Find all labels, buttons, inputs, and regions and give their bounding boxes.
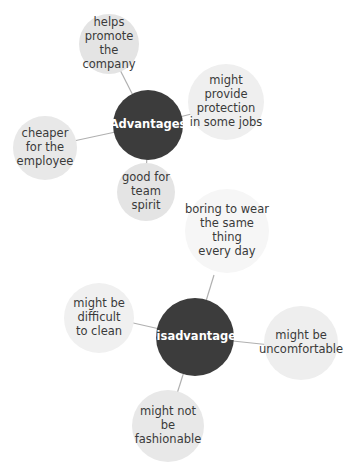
node-boring-to-wear: boring to wear the same thing every day bbox=[185, 189, 269, 273]
hub-advantages: Advantages bbox=[113, 90, 183, 160]
hub-label: Advantages bbox=[110, 118, 187, 132]
node-might-provide-protection: might provide protection in some jobs bbox=[188, 64, 264, 140]
node-might-be-uncomfortable: might be uncomfortable bbox=[264, 306, 338, 380]
node-might-not-be-fashionable: might not be fashionable bbox=[132, 390, 204, 462]
node-label: might be difficult to clean bbox=[73, 297, 125, 338]
node-label: might provide protection in some jobs bbox=[190, 74, 263, 129]
node-good-for-team-spirit: good for team spirit bbox=[117, 163, 175, 221]
node-label: helps promote the company bbox=[82, 16, 135, 71]
node-label: might be uncomfortable bbox=[259, 329, 343, 357]
node-helps-promote-company: helps promote the company bbox=[79, 14, 139, 74]
node-difficult-to-clean: might be difficult to clean bbox=[64, 283, 134, 353]
hub-label: Disadvantages bbox=[147, 330, 243, 344]
node-label: cheaper for the employee bbox=[17, 127, 74, 168]
hub-disadvantages: Disadvantages bbox=[156, 298, 234, 376]
node-cheaper-for-employee: cheaper for the employee bbox=[13, 116, 77, 180]
node-label: good for team spirit bbox=[122, 171, 170, 212]
node-label: might not be fashionable bbox=[132, 405, 204, 446]
node-label: boring to wear the same thing every day bbox=[185, 203, 269, 258]
